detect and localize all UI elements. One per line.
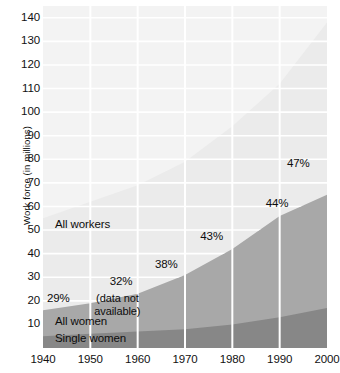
x-axis-tick-labels: 1940195019601970198019902000: [0, 0, 340, 373]
all-workers-label: All workers: [55, 218, 110, 231]
pct-2000: 47%: [287, 157, 310, 170]
note-line-1: (data not: [94, 292, 140, 305]
note-line-2: available): [94, 305, 140, 318]
x-tick-label: 1990: [258, 354, 302, 366]
pct-1980: 43%: [200, 230, 223, 243]
work-force-area-chart: Work force (in millions) 102030405060708…: [0, 0, 340, 373]
x-tick-label: 1980: [210, 354, 254, 366]
x-tick-label: 1970: [163, 354, 207, 366]
x-tick-label: 1960: [116, 354, 160, 366]
x-tick-label: 1950: [68, 354, 112, 366]
pct-1970: 38%: [155, 258, 178, 271]
pct-1990: 44%: [266, 197, 289, 210]
pct-1940: 29%: [47, 292, 70, 305]
pct-1960: 32%: [110, 275, 133, 288]
x-tick-label: 1940: [21, 354, 65, 366]
data-not-available-note: (data notavailable): [94, 292, 140, 317]
x-tick-label: 2000: [305, 354, 340, 366]
single-women-label: Single women: [55, 332, 126, 345]
